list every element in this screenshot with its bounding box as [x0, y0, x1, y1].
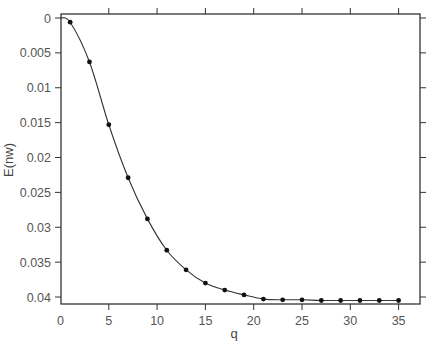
y-tick-label: 0.04 — [27, 291, 51, 305]
x-tick-label: 30 — [343, 314, 357, 328]
x-axis-ticks: 05101520253035 — [57, 8, 406, 328]
y-tick-label: 0.02 — [27, 151, 51, 165]
y-tick-label: 0.03 — [27, 221, 51, 235]
data-point — [358, 298, 363, 303]
data-point — [300, 297, 305, 302]
data-point — [68, 20, 73, 25]
data-point — [106, 122, 111, 127]
x-tick-label: 5 — [105, 314, 112, 328]
y-tick-label: 0.005 — [20, 46, 51, 60]
chart: 00.0050.010.0150.020.0250.030.0350.04 05… — [0, 0, 429, 351]
y-axis-ticks: 00.0050.010.0150.020.0250.030.0350.04 — [20, 12, 426, 305]
data-point — [242, 293, 247, 298]
y-tick-label: 0.015 — [20, 116, 51, 130]
data-markers — [68, 20, 401, 303]
x-tick-label: 0 — [57, 314, 64, 328]
y-tick-label: 0.035 — [20, 256, 51, 270]
data-line — [61, 18, 399, 301]
data-point — [145, 216, 150, 221]
plot-frame — [61, 14, 420, 304]
y-tick-label: 0.01 — [27, 81, 51, 95]
data-point — [319, 298, 324, 303]
x-tick-label: 25 — [295, 314, 309, 328]
data-point — [280, 297, 285, 302]
x-tick-label: 10 — [150, 314, 164, 328]
x-axis-label: q — [230, 326, 237, 341]
data-point — [126, 175, 131, 180]
data-point — [184, 267, 189, 272]
y-axis-label: E(nw) — [1, 143, 16, 177]
data-point — [203, 281, 208, 286]
data-point — [396, 298, 401, 303]
x-tick-label: 20 — [247, 314, 261, 328]
data-point — [377, 298, 382, 303]
data-point — [164, 248, 169, 253]
data-point — [87, 60, 92, 65]
data-point — [338, 298, 343, 303]
x-tick-label: 15 — [198, 314, 212, 328]
data-point — [261, 297, 266, 302]
x-tick-label: 35 — [392, 314, 406, 328]
y-tick-label: 0 — [44, 12, 51, 26]
y-tick-label: 0.025 — [20, 186, 51, 200]
data-point — [222, 288, 227, 293]
